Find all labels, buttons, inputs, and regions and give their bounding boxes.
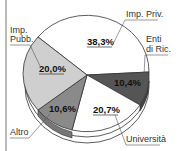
label-pubb: Pubb.: [10, 34, 34, 44]
label-universita: Università: [126, 134, 166, 144]
label-enti: Enti: [146, 34, 162, 44]
label-altro: Altro: [10, 127, 29, 137]
label-di-ric: di Ric.: [146, 44, 171, 54]
pct-altro: 10,6%: [49, 103, 76, 114]
pct-imp-pubb: 20,0%: [39, 63, 66, 74]
pct-universita: 20,7%: [93, 104, 120, 115]
pie-chart: 38,3% 10,4% 20,7% 10,6% 20,0% Imp. Priv.…: [0, 0, 178, 151]
pct-imp-priv: 38,3%: [87, 36, 114, 47]
pct-enti-di-ric: 10,4%: [114, 77, 141, 88]
label-imp-priv: Imp. Priv.: [126, 9, 163, 19]
